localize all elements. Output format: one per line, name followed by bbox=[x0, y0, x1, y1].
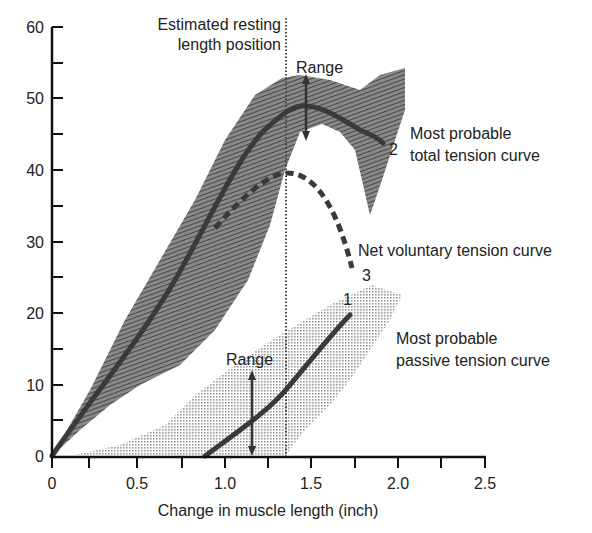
svg-text:0: 0 bbox=[35, 448, 44, 465]
svg-text:2.5: 2.5 bbox=[474, 475, 496, 492]
curve2-label-line2: total tension curve bbox=[410, 147, 540, 164]
y-tick-labels: 0 10 20 30 40 50 60 bbox=[26, 19, 44, 465]
y-ticks bbox=[52, 27, 63, 420]
curve2-number: 2 bbox=[389, 141, 398, 158]
curve1-number: 1 bbox=[343, 291, 352, 308]
svg-text:2.0: 2.0 bbox=[387, 475, 409, 492]
svg-text:50: 50 bbox=[26, 90, 44, 107]
svg-text:10: 10 bbox=[26, 377, 44, 394]
curve2-label-line1: Most probable bbox=[410, 125, 511, 142]
svg-text:60: 60 bbox=[26, 19, 44, 36]
curve3-number: 3 bbox=[362, 267, 371, 284]
range-label-bottom: Range bbox=[226, 351, 273, 368]
svg-text:0.5: 0.5 bbox=[126, 475, 148, 492]
svg-text:0: 0 bbox=[48, 475, 57, 492]
svg-text:20: 20 bbox=[26, 305, 44, 322]
x-tick-labels: 0 0.5 1.0 1.5 2.0 2.5 bbox=[48, 475, 497, 492]
svg-text:1.0: 1.0 bbox=[214, 475, 236, 492]
curve1-label-line2: passive tension curve bbox=[396, 352, 550, 369]
x-axis-label: Change in muscle length (inch) bbox=[158, 502, 379, 519]
range-label-top: Range bbox=[296, 59, 343, 76]
chart: 0 10 20 30 40 50 60 0 0.5 1.0 1.5 2.0 2.… bbox=[0, 0, 592, 533]
svg-text:40: 40 bbox=[26, 162, 44, 179]
svg-text:1.5: 1.5 bbox=[300, 475, 322, 492]
resting-length-label-line1: Estimated resting bbox=[157, 16, 281, 33]
curve1-label-line1: Most probable bbox=[396, 330, 497, 347]
resting-length-label-line2: length position bbox=[178, 36, 281, 53]
x-ticks bbox=[52, 457, 485, 468]
curve3-label: Net voluntary tension curve bbox=[358, 242, 552, 259]
svg-text:30: 30 bbox=[26, 234, 44, 251]
